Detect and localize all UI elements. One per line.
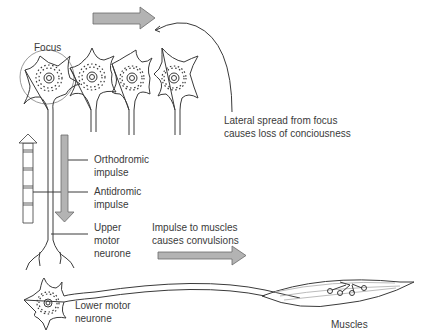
lateral-spread-label-line2: causes loss of conciousness	[224, 128, 351, 140]
antidromic-arrow	[19, 134, 37, 223]
diagram-canvas	[0, 0, 433, 336]
impulse-muscles-label-line2: causes convulsions	[152, 235, 239, 247]
impulse-muscles-label-line1: Impulse to muscles	[152, 222, 238, 234]
orthodromic-label-line2: impulse	[94, 167, 128, 179]
neuron-4	[154, 48, 198, 135]
focus-label: Focus	[34, 42, 61, 54]
orthodromic-label-line1: Orthodromic	[94, 154, 149, 166]
neuron-3	[112, 50, 152, 135]
lateral-spread-label-line1: Lateral spread from focus	[224, 115, 337, 127]
neuron-2	[70, 48, 116, 132]
muscles-label: Muscles	[331, 319, 368, 331]
antidromic-label-line1: Antidromic	[94, 186, 141, 198]
upper-motor-label-line2: motor	[94, 235, 120, 247]
antidromic-label-line2: impulse	[94, 199, 128, 211]
lower-motor-label-line2: neurone	[75, 313, 112, 325]
orthodromic-arrow	[55, 135, 74, 222]
lower-motor-neurone	[24, 278, 300, 330]
lower-motor-label-line1: Lower motor	[75, 300, 131, 312]
lateral-spread-callout-line	[156, 23, 232, 112]
impulse-arrow	[158, 246, 246, 265]
lateral-spread-arrow	[93, 7, 155, 29]
upper-motor-label-line3: neurone	[94, 248, 131, 260]
upper-motor-label-line1: Upper	[94, 222, 121, 234]
muscle	[262, 280, 414, 307]
